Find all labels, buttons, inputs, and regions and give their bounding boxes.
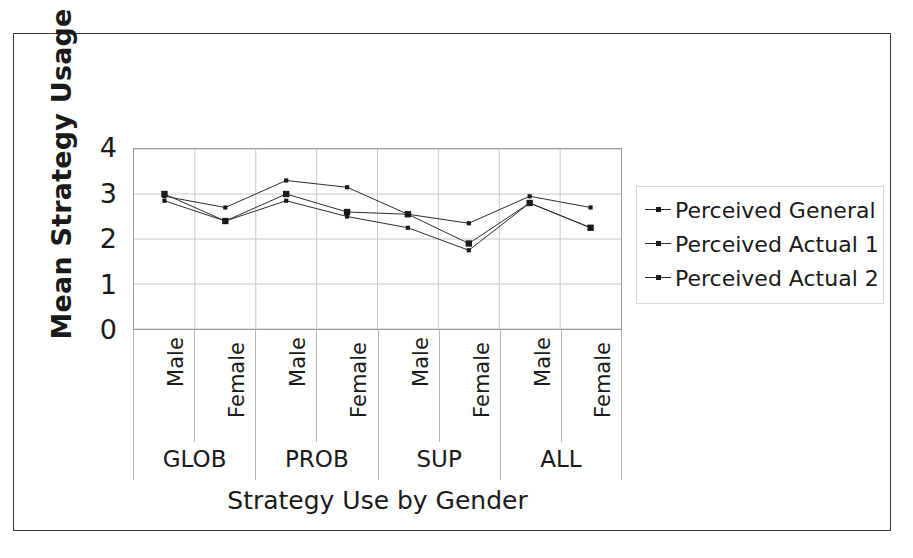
x-axis-category-band: GLOBPROBSUPALL MaleFemaleMaleFemaleMaleF… bbox=[133, 330, 622, 480]
data-point-marker bbox=[223, 205, 227, 209]
y-axis-title: Mean Strategy Usage bbox=[46, 80, 77, 340]
chart-plot-svg bbox=[134, 149, 621, 329]
x-category-cell-sup-male: Male bbox=[378, 330, 439, 442]
data-point-marker bbox=[223, 219, 227, 223]
legend-marker-icon bbox=[645, 203, 671, 217]
x-gender-label-female: Female bbox=[225, 342, 249, 418]
data-point-marker bbox=[467, 248, 471, 252]
data-point-marker bbox=[284, 199, 288, 203]
chart-legend: Perceived GeneralPerceived Actual 1Perce… bbox=[636, 186, 884, 304]
data-point-marker bbox=[162, 199, 166, 203]
y-tick-label-1: 1 bbox=[87, 271, 117, 298]
x-category-cell-prob-female: Female bbox=[316, 330, 377, 442]
data-point-marker bbox=[405, 211, 411, 217]
data-point-marker bbox=[161, 191, 167, 197]
legend-item-label: Perceived Actual 1 bbox=[675, 232, 879, 257]
data-point-marker bbox=[284, 178, 288, 182]
legend-marker-icon bbox=[645, 271, 671, 285]
y-axis-tick-labels: 43210 bbox=[87, 128, 117, 318]
x-category-cell-glob-male: Male bbox=[133, 330, 194, 442]
x-gender-label-male: Male bbox=[531, 337, 555, 387]
x-axis-title: Strategy Use by Gender bbox=[133, 486, 622, 515]
data-point-marker bbox=[467, 221, 471, 225]
x-category-cell-glob-female: Female bbox=[194, 330, 255, 442]
x-gender-label-female: Female bbox=[470, 342, 494, 418]
legend-item-label: Perceived General bbox=[675, 198, 876, 223]
legend-item-1[interactable]: Perceived Actual 1 bbox=[637, 227, 883, 261]
x-category-cell-sup-female: Female bbox=[439, 330, 500, 442]
data-point-marker bbox=[528, 194, 532, 198]
data-point-marker bbox=[588, 205, 592, 209]
x-gender-label-female: Female bbox=[347, 342, 371, 418]
x-axis-group-row: GLOBPROBSUPALL bbox=[133, 442, 622, 480]
data-point-marker bbox=[528, 201, 532, 205]
x-group-label-glob: GLOB bbox=[133, 442, 255, 480]
legend-marker-icon bbox=[645, 237, 671, 251]
legend-item-0[interactable]: Perceived General bbox=[637, 193, 883, 227]
x-gender-label-female: Female bbox=[591, 342, 615, 418]
data-point-marker bbox=[345, 185, 349, 189]
data-point-marker bbox=[345, 214, 349, 218]
x-group-label-prob: PROB bbox=[255, 442, 377, 480]
x-group-label-sup: SUP bbox=[378, 442, 500, 480]
y-tick-label-0: 0 bbox=[87, 316, 117, 343]
data-point-marker bbox=[344, 209, 350, 215]
x-gender-label-male: Male bbox=[409, 337, 433, 387]
y-tick-label-2: 2 bbox=[87, 225, 117, 252]
y-tick-label-3: 3 bbox=[87, 180, 117, 207]
plot-area bbox=[133, 148, 622, 330]
x-gender-label-male: Male bbox=[286, 337, 310, 387]
data-point-marker bbox=[466, 240, 472, 246]
x-gender-label-male: Male bbox=[164, 337, 188, 387]
x-category-cell-all-male: Male bbox=[500, 330, 561, 442]
data-point-marker bbox=[406, 226, 410, 230]
y-tick-label-4: 4 bbox=[87, 134, 117, 161]
data-point-marker bbox=[588, 226, 592, 230]
legend-item-2[interactable]: Perceived Actual 2 bbox=[637, 261, 883, 295]
x-category-cell-all-female: Female bbox=[561, 330, 622, 442]
x-category-cell-prob-male: Male bbox=[255, 330, 316, 442]
legend-item-label: Perceived Actual 2 bbox=[675, 266, 879, 291]
figure-frame: Mean Strategy Usage 43210 GLOBPROBSUPALL… bbox=[13, 33, 891, 531]
x-group-label-all: ALL bbox=[500, 442, 622, 480]
data-point-marker bbox=[283, 191, 289, 197]
